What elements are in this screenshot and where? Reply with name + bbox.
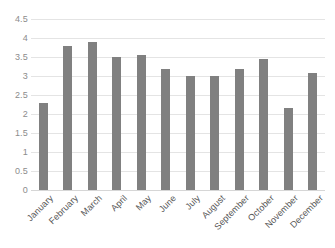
x-axis-tick-label-text: June [157, 193, 178, 214]
plot-area [31, 19, 325, 190]
x-axis-tick-label-text: July [184, 193, 203, 212]
x-axis-tick-label-text: May [134, 193, 153, 212]
y-axis-tick-label: 0 [2, 185, 28, 195]
x-axis-tick-label: April [109, 193, 129, 213]
x-axis-tick-label-text: March [79, 193, 104, 218]
bar [137, 55, 146, 190]
y-axis-tick-label: 1 [2, 147, 28, 157]
y-axis-tick-label: 4 [2, 33, 28, 43]
y-axis-tick-label: 3.5 [2, 52, 28, 62]
bar [186, 76, 195, 190]
y-axis-tick-label: 3 [2, 71, 28, 81]
bar [39, 103, 48, 190]
x-axis-tick-label: May [134, 193, 153, 212]
y-axis-tick-label: 0.5 [2, 166, 28, 176]
x-axis: JanuaryFebruaryMarchAprilMayJuneJulyAugu… [31, 191, 325, 248]
y-axis-tick-label: 1.5 [2, 128, 28, 138]
bar [210, 76, 219, 190]
bar [161, 69, 170, 190]
bar [112, 57, 121, 190]
bars-group [31, 19, 325, 190]
x-axis-tick-label: March [79, 193, 104, 218]
bar [308, 73, 317, 190]
bar [259, 59, 268, 190]
x-axis-tick-label-text: April [109, 193, 129, 213]
bar [235, 69, 244, 190]
y-axis: 00.511.522.533.544.5 [0, 0, 28, 248]
bar-chart: 00.511.522.533.544.5 JanuaryFebruaryMarc… [0, 0, 335, 248]
bar [88, 42, 97, 190]
x-axis-tick-label: June [157, 193, 178, 214]
bar [63, 46, 72, 190]
bar [284, 108, 293, 190]
y-axis-tick-label: 4.5 [2, 14, 28, 24]
y-axis-tick-label: 2 [2, 109, 28, 119]
y-axis-tick-label: 2.5 [2, 90, 28, 100]
x-axis-tick-label: July [184, 193, 203, 212]
